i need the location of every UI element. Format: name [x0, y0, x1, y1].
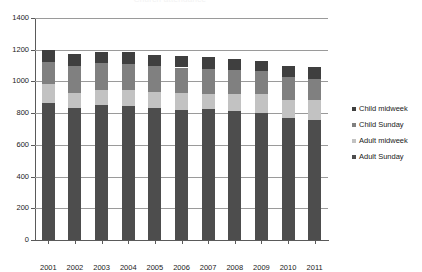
x-axis-label: 2003: [93, 264, 110, 272]
x-axis-tick: [182, 240, 183, 244]
bar-segment[interactable]: [148, 66, 161, 92]
bar-segment[interactable]: [202, 69, 215, 94]
bar-segment[interactable]: [95, 63, 108, 90]
bar-segment[interactable]: [122, 106, 135, 240]
bar-segment[interactable]: [68, 54, 81, 66]
bar-segment[interactable]: [228, 94, 241, 111]
legend-item[interactable]: Child Sunday: [352, 117, 422, 133]
bar-segment[interactable]: [175, 68, 188, 93]
bar-segment[interactable]: [202, 57, 215, 69]
legend-item[interactable]: Adult midweek: [352, 133, 422, 149]
stacked-bar[interactable]: [175, 56, 188, 240]
legend-label: Adult midweek: [359, 137, 408, 145]
bar-segment[interactable]: [202, 94, 215, 109]
bar-group: [308, 18, 321, 240]
y-axis-label: 1200: [12, 46, 29, 54]
x-axis-label: 2004: [120, 264, 137, 272]
bar-group: [148, 18, 161, 240]
bar-group: [42, 18, 55, 240]
bar-segment[interactable]: [282, 66, 295, 76]
bar-group: [68, 18, 81, 240]
x-axis-tick: [288, 240, 289, 244]
bar-segment[interactable]: [68, 66, 81, 92]
bar-segment[interactable]: [42, 50, 55, 62]
x-axis-tick: [48, 240, 49, 244]
bar-segment[interactable]: [255, 113, 268, 240]
y-axis-label: 1400: [12, 14, 29, 22]
stacked-bar[interactable]: [228, 59, 241, 240]
x-axis-tick: [315, 240, 316, 244]
stacked-bar[interactable]: [255, 61, 268, 240]
stacked-bar[interactable]: [308, 67, 321, 240]
x-axis-label: 2006: [173, 264, 190, 272]
legend-item[interactable]: Adult Sunday: [352, 149, 422, 165]
bar-segment[interactable]: [308, 79, 321, 100]
bar-segment[interactable]: [255, 61, 268, 71]
stacked-bar[interactable]: [202, 57, 215, 240]
stacked-bar[interactable]: [282, 66, 295, 240]
x-axis-label: 2010: [280, 264, 297, 272]
plot-area: 0200400600800100012001400 20012002200320…: [35, 18, 328, 240]
x-axis-label: 2009: [253, 264, 270, 272]
y-axis-label: 600: [16, 141, 29, 149]
bar-segment[interactable]: [42, 103, 55, 240]
bar-segment[interactable]: [95, 105, 108, 240]
y-axis-label: 1000: [12, 78, 29, 86]
x-axis-tick: [261, 240, 262, 244]
bar-segment[interactable]: [68, 93, 81, 108]
bar-segment[interactable]: [148, 92, 161, 108]
bar-segment[interactable]: [202, 109, 215, 240]
bar-segment[interactable]: [122, 52, 135, 63]
x-axis-tick: [155, 240, 156, 244]
bar-segment[interactable]: [282, 77, 295, 100]
bar-segment[interactable]: [42, 84, 55, 103]
bar-group: [202, 18, 215, 240]
x-axis-tick: [235, 240, 236, 244]
legend-swatch-icon: [352, 155, 356, 159]
x-axis-label: 2011: [307, 264, 323, 272]
bar-segment[interactable]: [122, 64, 135, 91]
bar-segment[interactable]: [228, 59, 241, 70]
bar-segment[interactable]: [122, 90, 135, 106]
legend-label: Child midweek: [359, 105, 408, 113]
legend-swatch-icon: [352, 139, 356, 143]
bar-segment[interactable]: [308, 120, 321, 241]
bar-segment[interactable]: [95, 52, 108, 63]
bar-segment[interactable]: [95, 90, 108, 105]
bar-segment[interactable]: [175, 93, 188, 110]
bar-segment[interactable]: [148, 108, 161, 240]
stacked-bar[interactable]: [68, 54, 81, 240]
bar-segment[interactable]: [282, 118, 295, 240]
bar-segment[interactable]: [148, 55, 161, 66]
bar-segment[interactable]: [255, 94, 268, 113]
bar-segment[interactable]: [282, 100, 295, 118]
legend-item[interactable]: Child midweek: [352, 101, 422, 117]
bar-segment[interactable]: [68, 108, 81, 240]
bar-segment[interactable]: [175, 56, 188, 68]
y-axis-label: 800: [16, 109, 29, 117]
x-axis-tick: [75, 240, 76, 244]
bar-segment[interactable]: [308, 100, 321, 119]
bar-segment[interactable]: [255, 71, 268, 94]
x-axis-tick: [208, 240, 209, 244]
stacked-bar[interactable]: [42, 50, 55, 240]
bar-segment[interactable]: [228, 70, 241, 94]
stacked-bar[interactable]: [95, 52, 108, 240]
bar-segment[interactable]: [228, 111, 241, 240]
y-axis-label: 200: [16, 205, 29, 213]
stacked-bar[interactable]: [122, 52, 135, 240]
bars-container: [35, 18, 328, 240]
chart-legend: Child midweekChild SundayAdult midweekAd…: [352, 101, 422, 165]
legend-swatch-icon: [352, 107, 356, 111]
bar-group: [95, 18, 108, 240]
x-axis-label: 2005: [147, 264, 164, 272]
bar-segment[interactable]: [308, 67, 321, 79]
bar-segment[interactable]: [175, 110, 188, 241]
bar-segment[interactable]: [42, 62, 55, 84]
y-axis-tick: [31, 240, 35, 241]
x-axis-tick: [128, 240, 129, 244]
y-axis-label: 400: [16, 173, 29, 181]
stacked-bar[interactable]: [148, 55, 161, 240]
bar-group: [228, 18, 241, 240]
